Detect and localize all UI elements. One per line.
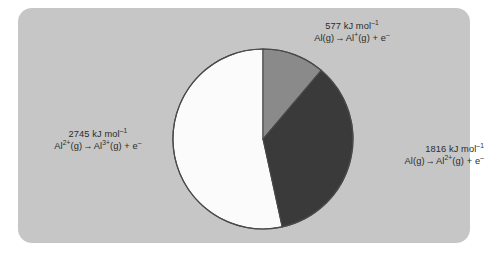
callout-first-equation: Al(g)→Al+(g) + e– [272, 32, 432, 44]
reaction-arrow-icon: → [334, 33, 345, 43]
callout-second-equation: Al(g)→Al2+(g) + e– [318, 155, 484, 167]
callout-second-ionisation: 1816 kJ mol–1 Al(g)→Al2+(g) + e– [318, 143, 484, 168]
callout-first-ionisation: 577 kJ mol–1 Al(g)→Al+(g) + e– [272, 20, 432, 45]
caption-remnant [22, 254, 252, 263]
callout-second-energy-exponent: –1 [476, 142, 484, 149]
callout-second-energy: 1816 kJ mol–1 [318, 143, 484, 155]
reaction-arrow-icon: → [82, 141, 93, 151]
reaction-arrow-icon: → [425, 156, 436, 166]
figure-root: 577 kJ mol–1 Al(g)→Al+(g) + e– 1816 kJ m… [0, 0, 490, 267]
callout-first-energy-exponent: –1 [371, 19, 379, 26]
callout-third-energy-exponent: –1 [120, 127, 128, 134]
callout-first-energy: 577 kJ mol–1 [272, 20, 432, 32]
callout-third-ionisation: 2745 kJ mol–1 Al2+(g)→Al3+(g) + e– [14, 128, 182, 153]
callout-third-equation: Al2+(g)→Al3+(g) + e– [14, 140, 182, 152]
callout-third-energy: 2745 kJ mol–1 [14, 128, 182, 140]
